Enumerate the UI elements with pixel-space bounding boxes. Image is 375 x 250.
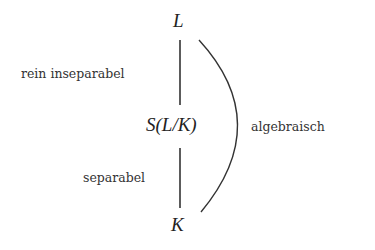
edge-arc-L-to-K [199,40,238,212]
node-L: L [173,10,184,32]
edge-label-rein-inseparabel: rein inseparabel [21,66,125,81]
node-S: S(L/K) [146,114,197,136]
edge-label-separabel: separabel [83,170,145,185]
edge-label-algebraisch: algebraisch [251,119,325,134]
node-K: K [171,214,184,236]
